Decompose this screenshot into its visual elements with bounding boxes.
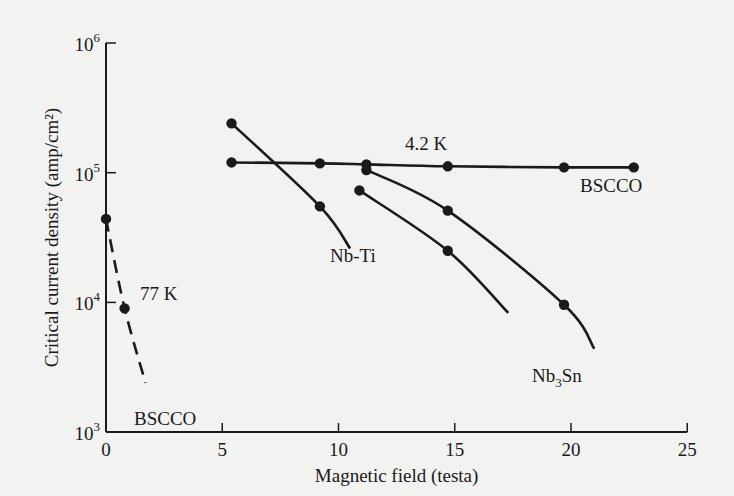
series-line-bscco-4-2-k- — [232, 162, 634, 167]
data-point — [226, 118, 236, 128]
label-nb3sn: Nb3Sn — [532, 365, 582, 390]
data-point — [361, 165, 371, 175]
data-point — [443, 205, 453, 215]
data-point — [629, 162, 639, 172]
chart: 0510152025103104105106Magnetic field (te… — [0, 0, 734, 496]
label-77k: 77 K — [140, 283, 178, 304]
x-tick-label: 0 — [101, 439, 111, 460]
label-4-2k: 4.2 K — [405, 133, 448, 154]
x-axis-label: Magnetic field (testa) — [315, 465, 479, 487]
data-point — [226, 157, 236, 167]
data-point — [443, 246, 453, 256]
label-bscco-77k: BSCCO — [134, 408, 196, 429]
data-point — [443, 161, 453, 171]
data-point — [354, 185, 364, 195]
y-tick-label: 103 — [75, 419, 101, 444]
data-point — [119, 303, 129, 313]
x-tick-label: 10 — [329, 439, 348, 460]
data-point — [315, 201, 325, 211]
label-bscco-4-2k: BSCCO — [580, 175, 642, 196]
series-line-nb-ti — [232, 123, 351, 248]
y-axis-label: Critical current density (amp/cm²) — [41, 108, 63, 367]
x-tick-label: 5 — [218, 439, 228, 460]
y-tick-label: 105 — [75, 160, 101, 185]
label-nb-ti: Nb-Ti — [330, 245, 376, 266]
x-tick-label: 15 — [445, 439, 464, 460]
x-tick-label: 25 — [678, 439, 697, 460]
series-line-nb3sn-lower- — [359, 190, 508, 312]
data-point — [559, 299, 569, 309]
annotation-layer: 4.2 K77 KBSCCOBSCCONb-TiNb3Sn — [134, 133, 642, 429]
series-line-nb3sn-upper- — [366, 170, 594, 349]
y-tick-label: 106 — [75, 30, 101, 55]
y-tick-label: 104 — [75, 289, 101, 314]
x-tick-label: 20 — [562, 439, 581, 460]
data-point — [315, 158, 325, 168]
data-point — [101, 214, 111, 224]
data-point — [559, 162, 569, 172]
